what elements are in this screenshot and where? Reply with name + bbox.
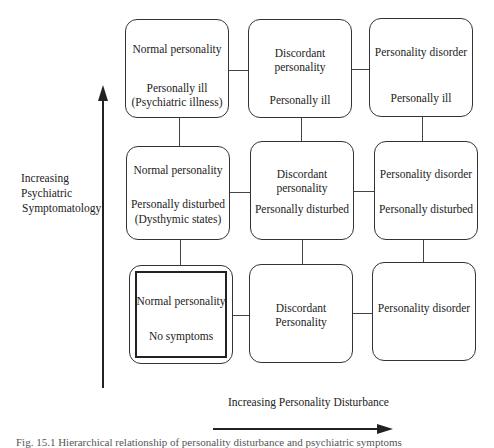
cell-discordant-ill: Discordant personality Personally ill: [248, 19, 352, 118]
connector: [352, 313, 372, 314]
cell-bottom-text: Personally ill: [370, 91, 472, 105]
y-label-line-3: Symptomatology: [21, 201, 101, 216]
cell-top-text-2: personality: [251, 181, 353, 195]
cell-bottom-text: Personally disturbed: [375, 202, 477, 216]
cell-bottom-text: Personally disturbed: [127, 197, 229, 211]
cell-top-text: Discordant: [250, 301, 352, 315]
connector: [302, 240, 303, 264]
cell-bottom-text: Personally ill: [249, 93, 351, 107]
up-arrow-icon: [96, 85, 110, 390]
y-axis-label: Increasing Psychiatric Symptomatology: [21, 171, 101, 216]
connector: [229, 70, 248, 71]
y-label-line-2: Psychiatric: [21, 186, 101, 201]
cell-top-text: Normal personality: [127, 163, 229, 177]
connector: [351, 69, 369, 70]
cell-top-text-2: personality: [249, 60, 351, 74]
connector: [180, 240, 181, 265]
cell-top-text-2: Personality: [250, 315, 352, 329]
cell-normal-disturbed: Normal personality Personally disturbed …: [126, 146, 230, 240]
cell-disorder-disturbed: Personality disorder Personally disturbe…: [374, 141, 478, 240]
cell-normal-ill: Normal personality Personally ill (Psych…: [125, 19, 229, 118]
connector: [423, 239, 424, 263]
connector: [229, 192, 250, 193]
cell-discordant-none: Discordant Personality: [249, 264, 353, 363]
highlight-border: [135, 271, 227, 358]
cell-bottom-text: No symptoms: [130, 329, 232, 343]
cell-disorder-none: Personality disorder: [372, 262, 476, 361]
connector: [353, 191, 374, 192]
figure-caption: Fig. 15.1 Hierarchical relationship of p…: [16, 436, 402, 448]
cell-top-text: Normal personality: [126, 42, 228, 56]
y-label-line-1: Increasing: [21, 171, 101, 186]
connector: [301, 117, 302, 141]
connector: [232, 315, 249, 316]
cell-top-text: Personality disorder: [375, 167, 477, 181]
cell-disorder-ill: Personality disorder Personally ill: [369, 18, 473, 117]
cell-top-text: Personality disorder: [370, 45, 472, 59]
cell-top-text: Personality disorder: [373, 301, 475, 315]
cell-bottom-text: Personally ill: [126, 81, 228, 95]
x-axis-label: Increasing Personality Disturbance: [228, 395, 389, 410]
connector: [422, 117, 423, 141]
cell-bottom-text-2: (Dysthymic states): [127, 212, 229, 226]
right-arrow-icon: [213, 423, 393, 435]
cell-top-text: Discordant: [251, 167, 353, 181]
cell-top-text: Normal personality: [130, 294, 232, 308]
cell-top-text: Discordant: [249, 46, 351, 60]
cell-bottom-text: Personally disturbed: [251, 202, 353, 216]
cell-discordant-disturbed: Discordant personality Personally distur…: [250, 141, 354, 240]
cell-normal-no-symptoms: Normal personality No symptoms: [129, 265, 233, 364]
cell-bottom-text-2: (Psychiatric illness): [126, 95, 228, 109]
